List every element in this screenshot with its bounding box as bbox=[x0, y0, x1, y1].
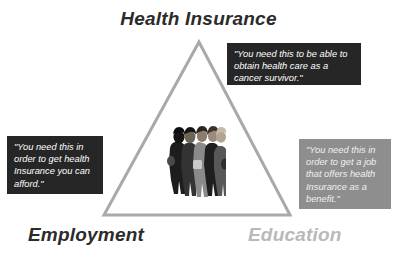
group-of-people-illustration bbox=[164, 120, 226, 198]
diagram-canvas: Health Insurance Employment Education "Y… bbox=[0, 0, 397, 260]
vertex-label-employment: Employment bbox=[28, 224, 144, 246]
callout-health-insurance: "You need this to be able to obtain heal… bbox=[227, 43, 361, 85]
vertex-label-health-insurance: Health Insurance bbox=[0, 8, 397, 30]
group-of-people-photo bbox=[164, 120, 226, 198]
callout-employment: "You need this in order to get health In… bbox=[7, 136, 103, 194]
callout-education: "You need this in order to get a job tha… bbox=[299, 139, 391, 209]
vertex-label-education: Education bbox=[248, 224, 342, 246]
